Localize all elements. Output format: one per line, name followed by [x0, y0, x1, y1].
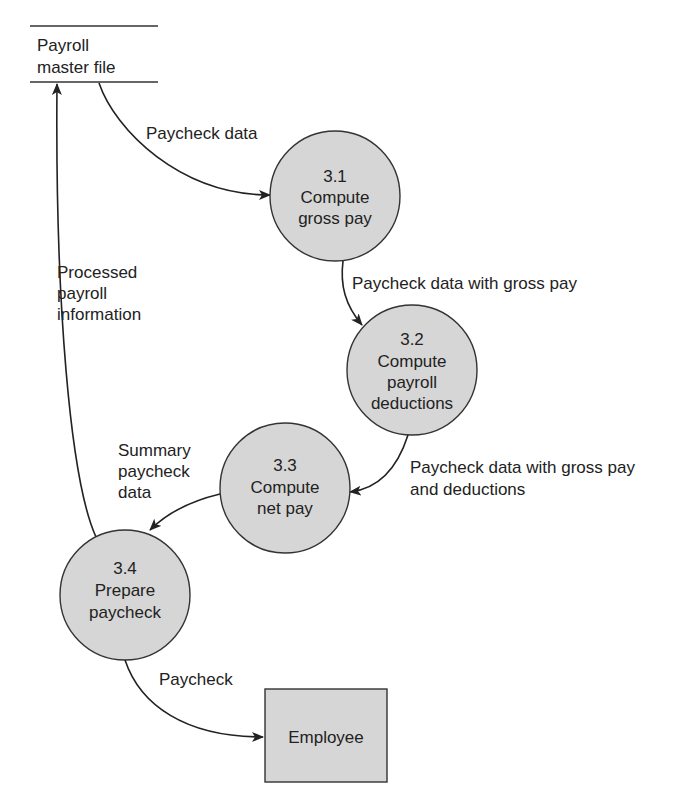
data-flow-diagram: Payroll master file Paycheck data 3.1 Co… [0, 0, 697, 810]
process-label-line: Compute [378, 352, 447, 371]
data-store-label-line-2: master file [37, 58, 115, 77]
process-label-line: Compute [301, 188, 370, 207]
flow-label-paycheck: Paycheck [159, 670, 233, 689]
data-store-label-line-1: Payroll [37, 36, 89, 55]
process-3-1-compute-gross-pay: 3.1 Compute gross pay [270, 131, 400, 261]
process-id: 3.4 [113, 559, 137, 578]
process-label-line: paycheck [89, 603, 161, 622]
process-id: 3.2 [400, 330, 424, 349]
flow-label-processed-payroll-information: payroll [57, 284, 107, 303]
flow-label-paycheck-data-with-gross-pay-and-deductions: and deductions [410, 480, 525, 499]
data-store-payroll-master-file: Payroll master file [30, 26, 158, 82]
flow-label-summary-paycheck-data: paycheck [118, 462, 190, 481]
process-label-line: Compute [251, 478, 320, 497]
external-entity-employee: Employee [265, 689, 387, 782]
flow-arrow-paycheck-data-with-gross-pay-and-deductions [350, 435, 408, 492]
process-label-line: net pay [257, 499, 313, 518]
process-3-2-compute-payroll-deductions: 3.2 Compute payroll deductions [347, 305, 477, 435]
process-label-line: payroll [387, 373, 437, 392]
flow-label-processed-payroll-information: information [57, 305, 141, 324]
flow-label-summary-paycheck-data: data [118, 483, 152, 502]
flow-label-paycheck-data-with-gross-pay: Paycheck data with gross pay [352, 274, 577, 293]
process-id: 3.1 [323, 167, 347, 186]
flow-arrow-summary-paycheck-data [150, 494, 220, 530]
process-label-line: Prepare [95, 581, 155, 600]
flow-arrow-paycheck-data-with-gross-pay [342, 261, 362, 325]
process-3-4-prepare-paycheck: 3.4 Prepare paycheck [60, 530, 190, 660]
flow-label-paycheck-data-with-gross-pay-and-deductions: Paycheck data with gross pay [410, 458, 635, 477]
flow-label-summary-paycheck-data: Summary [118, 441, 191, 460]
process-label-line: gross pay [298, 209, 372, 228]
flow-label-processed-payroll-information: Processed [57, 263, 137, 282]
entity-label: Employee [288, 728, 364, 747]
process-3-3-compute-net-pay: 3.3 Compute net pay [220, 423, 350, 553]
flow-label-paycheck-data: Paycheck data [146, 124, 258, 143]
process-id: 3.3 [273, 456, 297, 475]
process-label-line: deductions [371, 394, 453, 413]
